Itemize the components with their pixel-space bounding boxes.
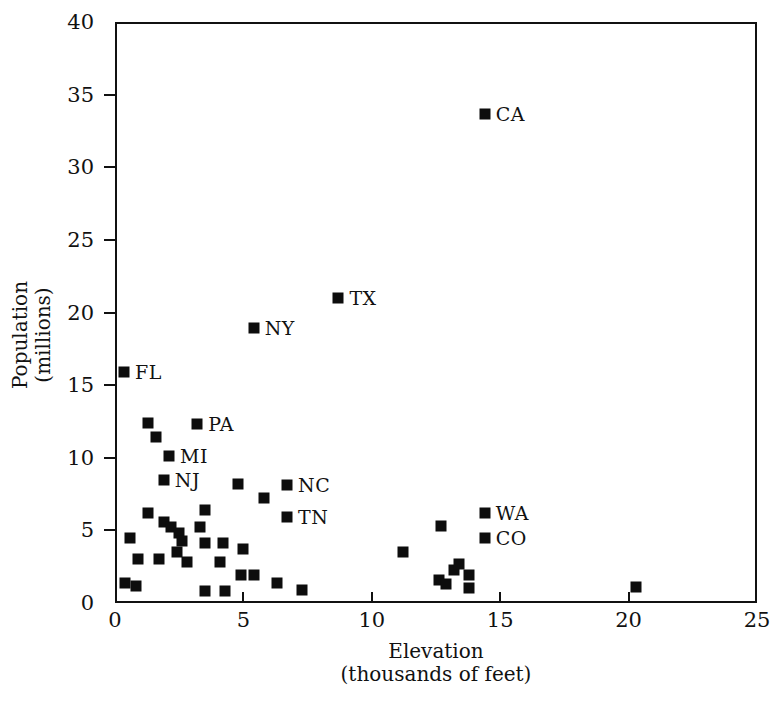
data-point xyxy=(397,547,408,558)
data-point xyxy=(125,532,136,543)
data-point xyxy=(215,557,226,568)
data-point xyxy=(199,505,210,516)
data-point-label-mi: MI xyxy=(180,445,208,467)
data-point-label-co: CO xyxy=(496,527,527,549)
data-point xyxy=(297,584,308,595)
data-point xyxy=(194,522,205,533)
data-point xyxy=(235,570,246,581)
data-point xyxy=(151,432,162,443)
scatter-chart-figure: 05101520253035400510152025 CATXNYFLPAMIN… xyxy=(0,0,784,708)
x-axis-tick-label: 0 xyxy=(85,608,145,632)
y-axis-tick-label: 10 xyxy=(34,446,94,470)
data-point-nc xyxy=(282,480,293,491)
data-point-label-fl: FL xyxy=(135,361,162,383)
data-point-label-tn: TN xyxy=(298,506,328,528)
x-axis-title-line2: (thousands of feet) xyxy=(115,663,757,686)
data-point xyxy=(199,586,210,597)
data-point-wa xyxy=(479,507,490,518)
data-point-tx xyxy=(333,292,344,303)
data-point-label-ny: NY xyxy=(265,317,295,339)
y-axis-tick-label: 30 xyxy=(34,155,94,179)
y-axis-tick xyxy=(104,457,115,459)
y-axis-title: Population (millions) xyxy=(9,225,55,445)
data-point xyxy=(441,579,452,590)
data-point xyxy=(143,507,154,518)
data-point xyxy=(464,570,475,581)
data-point xyxy=(217,538,228,549)
data-point-pa xyxy=(192,419,203,430)
data-point-label-pa: PA xyxy=(208,413,234,435)
data-point xyxy=(153,554,164,565)
y-axis-tick-label: 5 xyxy=(34,518,94,542)
data-point xyxy=(199,538,210,549)
data-point xyxy=(454,558,465,569)
data-point xyxy=(233,478,244,489)
y-axis-tick xyxy=(104,384,115,386)
x-axis-title: Elevation (thousands of feet) xyxy=(115,640,757,686)
y-axis-tick xyxy=(104,94,115,96)
data-point xyxy=(143,417,154,428)
data-point-tn xyxy=(282,512,293,523)
y-axis-tick xyxy=(104,239,115,241)
data-point-co xyxy=(479,532,490,543)
data-point xyxy=(258,493,269,504)
data-point-ny xyxy=(248,323,259,334)
data-point xyxy=(271,577,282,588)
data-point xyxy=(248,570,259,581)
y-axis-title-line1: Population xyxy=(9,225,32,445)
x-axis-tick-label: 10 xyxy=(342,608,402,632)
data-point-mi xyxy=(163,451,174,462)
y-axis-tick xyxy=(104,166,115,168)
x-axis-tick-label: 25 xyxy=(727,608,784,632)
x-axis-tick-label: 15 xyxy=(470,608,530,632)
data-point-label-nj: NJ xyxy=(175,469,200,491)
data-points-layer: CATXNYFLPAMINJNCTNWACO xyxy=(115,22,757,603)
data-point-label-nc: NC xyxy=(298,474,330,496)
y-axis-tick-label: 35 xyxy=(34,83,94,107)
data-point-nj xyxy=(158,474,169,485)
data-point xyxy=(464,583,475,594)
y-axis-title-line2: (millions) xyxy=(32,225,55,445)
data-point xyxy=(133,554,144,565)
data-point-fl xyxy=(118,367,129,378)
data-point-ca xyxy=(479,108,490,119)
data-point xyxy=(130,580,141,591)
data-point-label-wa: WA xyxy=(496,502,529,524)
data-point-label-tx: TX xyxy=(349,287,376,309)
x-axis-tick-label: 20 xyxy=(599,608,659,632)
x-axis-tick-label: 5 xyxy=(213,608,273,632)
data-point xyxy=(436,521,447,532)
y-axis-tick xyxy=(104,529,115,531)
data-point-label-ca: CA xyxy=(496,103,525,125)
data-point xyxy=(631,582,642,593)
y-axis-tick xyxy=(104,312,115,314)
y-axis-tick-label: 40 xyxy=(34,10,94,34)
data-point xyxy=(176,535,187,546)
data-point xyxy=(220,586,231,597)
data-point xyxy=(181,557,192,568)
data-point xyxy=(238,544,249,555)
x-axis-title-line1: Elevation xyxy=(115,640,757,663)
